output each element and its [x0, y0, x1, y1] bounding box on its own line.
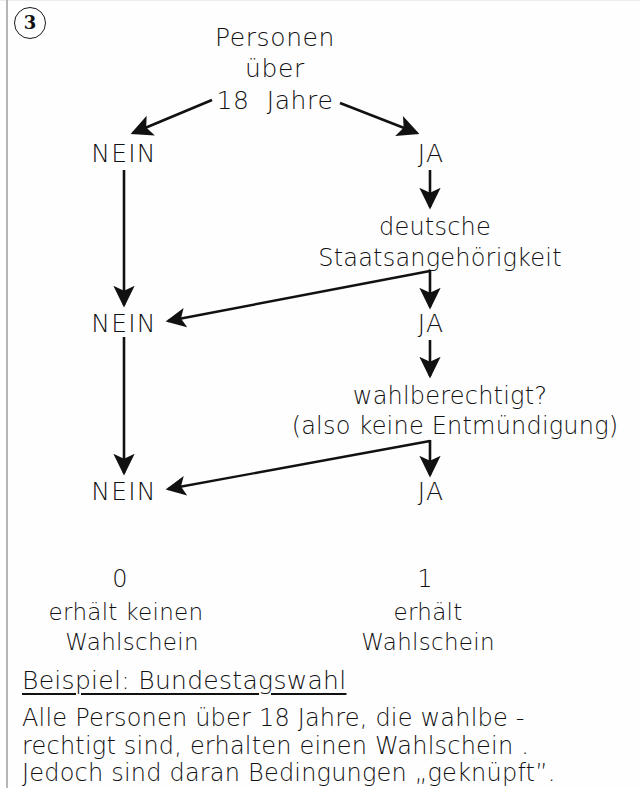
outcome-no-line1: erhält keinen — [49, 600, 204, 626]
question2-line2: Staatsangehörigkeit — [318, 245, 562, 272]
item-number-badge: 3 — [14, 7, 46, 39]
scan-edge-top — [0, 0, 640, 1]
question3-line1: wahlberechtigt? — [353, 383, 547, 410]
outcome-yes-line2: Wahlschein — [361, 630, 495, 656]
scan-edge-left — [6, 0, 8, 788]
arrow-question2-to-nein2 — [168, 271, 430, 321]
level2-no-label: NEIN — [91, 310, 156, 338]
item-number-text: 3 — [24, 14, 37, 32]
example-heading: Beispiel: Bundestagswahl — [22, 667, 346, 695]
outcome-no-line2: Wahlschein — [65, 630, 199, 656]
worksheet-page: 3 Personen über 18 Jahre NEIN — [0, 0, 640, 788]
level3-yes-label: JA — [418, 478, 444, 506]
arrow-root-to-ja1 — [340, 103, 417, 133]
arrow-root-to-nein1 — [133, 100, 212, 133]
arrow-question3-to-nein3 — [168, 441, 430, 489]
root-question-line2: über — [245, 55, 305, 83]
level1-yes-label: JA — [418, 140, 444, 168]
example-line-2: rechtigt sind, erhalten einen Wahlschein… — [22, 733, 529, 760]
question3-line2: (also keine Entmündigung) — [292, 413, 619, 440]
root-question-line3: 18 Jahre — [217, 87, 334, 115]
example-line-3: Jedoch sind daran Bedingungen „geknüpft”… — [22, 760, 556, 787]
level3-no-label: NEIN — [91, 478, 156, 506]
level1-no-label: NEIN — [91, 140, 156, 168]
question2-line1: deutsche — [379, 214, 491, 241]
outcome-no-value: 0 — [112, 566, 128, 593]
outcome-yes-value: 1 — [417, 566, 433, 593]
level2-yes-label: JA — [418, 310, 444, 338]
example-line-1: Alle Personen über 18 Jahre, die wahlbe … — [22, 705, 525, 732]
root-question-line1: Personen — [215, 24, 335, 52]
outcome-yes-line1: erhält — [393, 600, 462, 626]
